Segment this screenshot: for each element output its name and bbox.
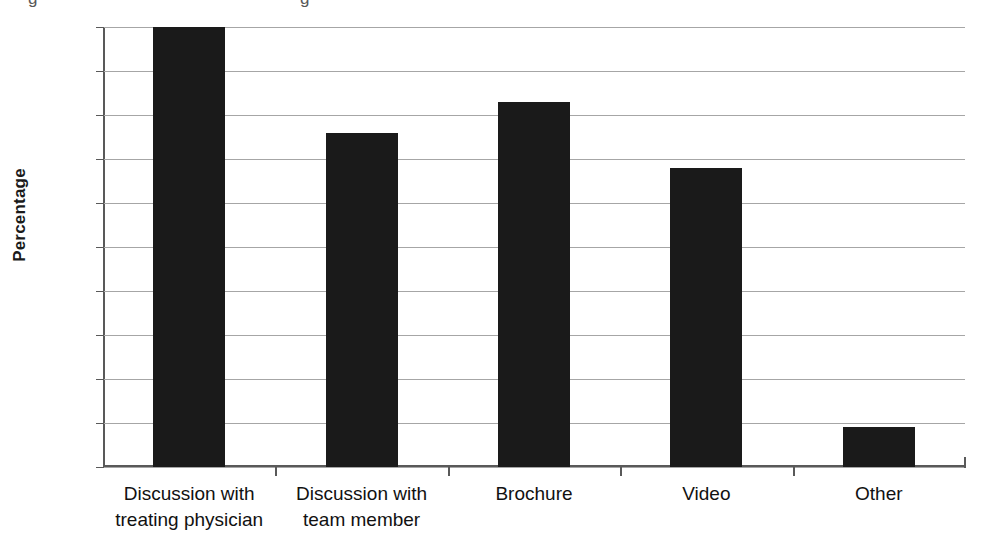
- bar: [498, 102, 570, 467]
- y-tick-mark: [96, 467, 104, 468]
- bar-slot: [103, 27, 275, 467]
- bar-slot: [275, 27, 447, 467]
- x-axis-label-line: Brochure: [448, 481, 620, 507]
- x-axis-label: Discussion withtreating physician: [103, 481, 275, 533]
- bar-slot: [448, 27, 620, 467]
- x-axis-label-line: team member: [275, 507, 447, 533]
- scan-text-remnant-right: g: [300, 0, 309, 7]
- axis-end-tick: [964, 457, 966, 468]
- bar-chart-figure: g g Percentage 0102030405060708090100 Di…: [0, 0, 988, 550]
- x-axis-label: Other: [793, 481, 965, 507]
- x-axis-label: Discussion withteam member: [275, 481, 447, 533]
- x-axis-label-line: Discussion with: [103, 481, 275, 507]
- x-axis-labels: Discussion withtreating physicianDiscuss…: [103, 481, 965, 543]
- x-axis-label-line: Video: [620, 481, 792, 507]
- bar: [153, 27, 225, 467]
- x-tick-mark: [793, 467, 795, 476]
- x-axis-label-line: Discussion with: [275, 481, 447, 507]
- gridline: [103, 467, 965, 468]
- bar: [843, 427, 915, 467]
- x-axis-label-line: treating physician: [103, 507, 275, 533]
- x-tick-mark: [620, 467, 622, 476]
- y-axis-title: Percentage: [10, 150, 30, 280]
- x-tick-mark: [275, 467, 277, 476]
- scan-text-remnant-left: g: [28, 0, 37, 7]
- plot-area: 0102030405060708090100: [103, 27, 965, 467]
- x-axis-label: Brochure: [448, 481, 620, 507]
- x-axis-label-line: Other: [793, 481, 965, 507]
- bar: [670, 168, 742, 467]
- bar-slot: [620, 27, 792, 467]
- bar-slot: [793, 27, 965, 467]
- x-axis-label: Video: [620, 481, 792, 507]
- bar: [326, 133, 398, 467]
- bars: [103, 27, 965, 467]
- x-tick-mark: [448, 467, 450, 476]
